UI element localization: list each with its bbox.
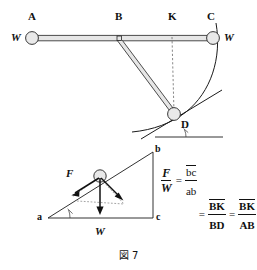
label-vertex-b: b [155, 144, 161, 154]
bob-c [207, 32, 220, 45]
label-vertex-a: a [37, 212, 42, 222]
label-vector-w: W [95, 226, 105, 237]
fraction-bk-over-bd: BK BD [208, 197, 226, 232]
lower-diagram-group [48, 152, 153, 218]
fraction-denominator-ab: ab [185, 181, 197, 198]
pendulum-arm-fill [117, 40, 177, 114]
equals-sign-3: = [226, 208, 238, 220]
vector-w-arrowhead [96, 206, 103, 215]
fraction-bk-over-ab: BK AB [238, 197, 256, 232]
rod-body-fill [32, 35, 214, 41]
fraction-numerator-bk-1: BK [208, 197, 226, 215]
fraction-bc-over-ab: bc ab [185, 163, 197, 198]
pendulum-arm-edge-left [117, 41, 172, 115]
vertical-reference-line-kd [172, 37, 174, 113]
fraction-denominator-ab: AB [238, 215, 255, 232]
fraction-numerator-bc: bc [185, 163, 197, 181]
label-point-k: K [168, 11, 177, 22]
fraction-numerator-bk-2: BK [238, 197, 256, 215]
label-weight-left: W [11, 32, 21, 43]
fraction-denominator-bd: BD [208, 215, 225, 232]
equation-block: F W = bc ab = BK BD [160, 163, 257, 231]
bob-a [26, 32, 39, 45]
tangent-line-at-d [141, 90, 222, 139]
upper-diagram-group [26, 23, 223, 139]
vector-f-shaft [75, 178, 99, 193]
label-point-b: B [115, 11, 122, 22]
equation-line-2: = BK BD = BK AB [160, 197, 257, 231]
label-vector-f: F [66, 168, 73, 179]
figure-7-root: A B K C D W W a b c F W F W = bc ab [0, 0, 257, 270]
label-point-d: D [181, 119, 189, 130]
label-weight-right: W [224, 32, 234, 43]
equation-line-1: F W = bc ab [160, 163, 257, 197]
equals-sign-2: = [196, 208, 208, 220]
fraction-denominator-w: W [160, 181, 173, 194]
fraction-f-over-w: F W [160, 167, 173, 194]
figure-caption: 図 7 [0, 247, 257, 262]
fraction-numerator-f: F [161, 167, 171, 181]
equals-sign-1: = [173, 174, 185, 186]
pendulum-arm-edge-right [122, 40, 177, 113]
angle-tick-at-a [68, 209, 73, 214]
vector-n-shaft [101, 178, 119, 196]
label-point-c: C [207, 11, 215, 22]
label-point-a: A [28, 11, 36, 22]
bob-d [168, 108, 181, 121]
